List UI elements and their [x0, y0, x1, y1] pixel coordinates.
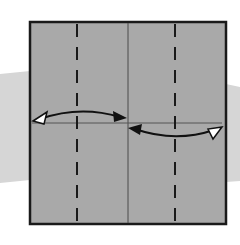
origami-diagram	[0, 0, 240, 245]
